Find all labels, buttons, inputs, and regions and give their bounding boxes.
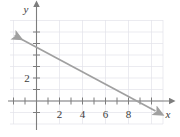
coordinate-plane-figure: 2 4 6 8 2 x y (0, 0, 180, 137)
plotted-line (15, 36, 156, 112)
y-tick-label-2: 2 (24, 72, 30, 84)
line-segment (15, 36, 156, 112)
graph-svg: 2 4 6 8 2 x y (0, 0, 180, 137)
x-tick-label-8: 8 (126, 108, 132, 120)
x-axis-label: x (165, 108, 171, 120)
axes (8, 6, 170, 130)
x-tick-label-2: 2 (57, 108, 63, 120)
x-tick-label-6: 6 (103, 108, 109, 120)
y-axis-label: y (23, 3, 29, 15)
grid-lines (10, 20, 163, 124)
x-tick-label-4: 4 (80, 108, 86, 120)
